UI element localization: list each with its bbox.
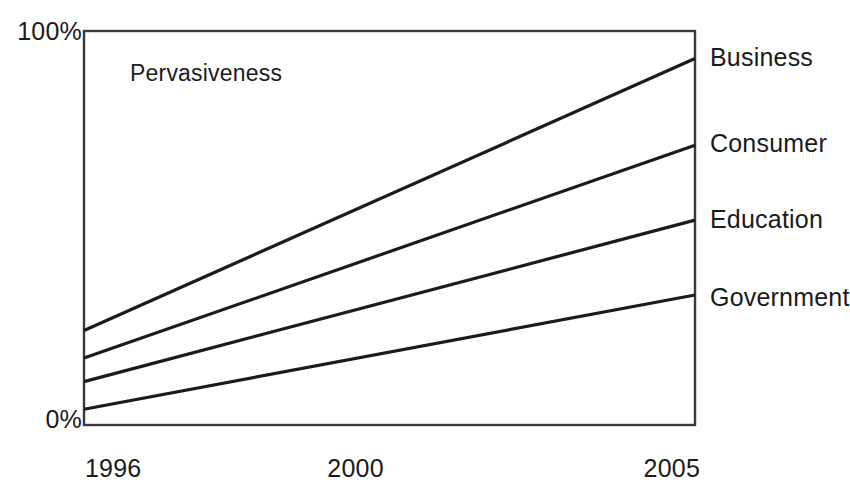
series-lines (84, 59, 695, 410)
x-axis-tick-label-2005: 2005 (644, 456, 700, 481)
series-label-business: Business (710, 45, 813, 70)
series-label-government: Government (710, 285, 850, 310)
plot-frame (84, 31, 695, 425)
y-axis-tick-label-100: 100% (17, 19, 82, 44)
y-axis-tick-label-0: 0% (45, 407, 82, 432)
x-axis-tick-label-2000: 2000 (327, 456, 383, 481)
series-line-consumer (84, 145, 695, 358)
series-label-consumer: Consumer (710, 131, 827, 156)
series-line-business (84, 59, 695, 331)
series-label-education: Education (710, 207, 823, 232)
plot-annotation-pervasiveness: Pervasiveness (130, 62, 282, 85)
series-line-education (84, 220, 695, 382)
x-axis-tick-label-1996: 1996 (85, 456, 141, 481)
series-line-government (84, 295, 695, 409)
